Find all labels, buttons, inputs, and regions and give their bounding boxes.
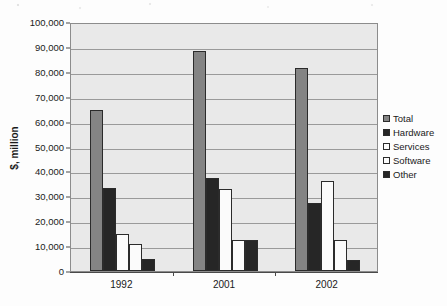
legend-item-other[interactable]: Other [383,168,445,181]
y-axis-tick-mark [66,47,70,48]
bar-other-1992[interactable] [142,259,155,271]
chart-legend: TotalHardwareServicesSoftwareOther [383,112,445,182]
bar-total-2002[interactable] [295,68,308,271]
y-axis-tick-label: 80,000 [20,68,64,78]
bars-layer [71,24,377,271]
legend-label: Other [393,170,417,180]
x-axis-line [70,272,378,273]
bar-services-2001[interactable] [219,189,232,271]
y-axis-tick-label: 40,000 [20,168,64,178]
y-axis-tick-mark [66,97,70,98]
bar-software-1992[interactable] [129,244,142,271]
y-axis-tick-label: 100,000 [20,18,64,28]
bar-hardware-2001[interactable] [206,178,219,271]
plot-area [70,23,378,272]
legend-label: Hardware [393,128,434,138]
legend-item-software[interactable]: Software [383,154,445,167]
bar-hardware-2002[interactable] [308,203,321,271]
legend-item-hardware[interactable]: Hardware [383,126,445,139]
y-axis-tick-label: 0 [20,267,64,277]
bar-hardware-1992[interactable] [103,188,116,271]
legend-item-total[interactable]: Total [383,112,445,125]
x-axis-tick-mark [275,272,276,276]
y-axis-tick-label: 50,000 [20,143,64,153]
y-axis-tick-mark [66,122,70,123]
y-axis-tick-mark [66,247,70,248]
legend-swatch-hardware-icon [383,129,390,136]
legend-swatch-total-icon [383,115,390,122]
y-axis-tick-mark [66,222,70,223]
y-axis-tick-mark [66,72,70,73]
bar-total-1992[interactable] [90,110,103,271]
x-axis-tick-label: 2001 [213,279,235,291]
legend-swatch-services-icon [383,143,390,150]
legend-label: Total [393,114,413,124]
bar-services-2002[interactable] [321,181,334,271]
y-axis-tick-mark [66,23,70,24]
bar-group [193,24,258,271]
y-axis-tick-mark [66,272,70,273]
legend-swatch-software-icon [383,157,390,164]
bar-total-2001[interactable] [193,51,206,271]
y-axis-tick-label: 10,000 [20,242,64,252]
y-axis-tick-label: 30,000 [20,193,64,203]
chart-figure: $, million 100,00090,00080,00070,00060,0… [0,0,447,306]
legend-label: Services [393,142,429,152]
scan-artifact-band [0,0,447,14]
x-axis-tick-label: 2002 [316,279,338,291]
legend-swatch-other-icon [383,171,390,178]
y-axis-tick-label: 20,000 [20,217,64,227]
y-axis-tick-mark [66,197,70,198]
bar-group [90,24,155,271]
legend-label: Software [393,156,431,166]
y-axis-tick-label: 90,000 [20,43,64,53]
bar-other-2002[interactable] [347,260,360,271]
bar-services-1992[interactable] [116,234,129,271]
y-axis-title-text: $, million [9,126,20,169]
x-axis-tick-mark [173,272,174,276]
x-axis-tick-label: 1992 [110,279,132,291]
bar-software-2002[interactable] [334,240,347,271]
y-axis-tick-labels: 100,00090,00080,00070,00060,00050,00040,… [20,23,64,272]
bar-software-2001[interactable] [232,240,245,271]
legend-item-services[interactable]: Services [383,140,445,153]
y-axis-tick-mark [66,172,70,173]
y-axis-tick-mark [66,147,70,148]
bar-other-2001[interactable] [245,240,258,271]
y-axis-tick-label: 70,000 [20,93,64,103]
y-axis-tick-label: 60,000 [20,118,64,128]
bar-group [295,24,360,271]
